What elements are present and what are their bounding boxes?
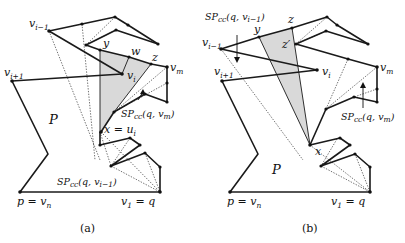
label-sp-vm-a: SPcc(q, vm) — [121, 108, 175, 121]
arrowhead-sp-vm-b — [360, 82, 366, 88]
label-P-a: P — [48, 112, 58, 127]
caption-a: (a) — [80, 222, 95, 235]
label-x-ui-a: x = ui — [104, 123, 137, 138]
label-z-prime-b: z′ — [281, 38, 291, 51]
vertices-a — [10, 15, 169, 193]
label-sp-vim1-a: SPcc(q, vi−1) — [57, 176, 117, 189]
label-v-i-b: vi — [322, 65, 331, 80]
label-p-vn-a: p = vn — [17, 195, 51, 210]
label-v1-q-b: v1 = q — [331, 195, 365, 210]
label-v-ip1-a: vi+1 — [4, 66, 24, 81]
caption-b: (b) — [302, 222, 318, 235]
label-v1-q-a: v1 = q — [121, 195, 155, 210]
figure-canvas: vi−1 vi+1 vi vm y w z P x = ui SPcc(q, v… — [0, 0, 405, 243]
label-w-a: w — [131, 45, 141, 58]
label-x-b: x — [315, 145, 322, 158]
label-y-b: y — [253, 23, 261, 36]
label-v-ip1-b: vi+1 — [214, 65, 234, 80]
panel-b: SPcc(q, vi−1) vi−1 vi+1 vi vm y z z′ x P… — [202, 11, 395, 235]
label-y-a: y — [102, 37, 110, 50]
label-v-im1-a: vi−1 — [29, 17, 49, 32]
label-sp-vm-b: SPcc(q, vm) — [341, 111, 395, 124]
panel-a: vi−1 vi+1 vi vm y w z P x = ui SPcc(q, v… — [4, 15, 183, 235]
label-v-m-b: vm — [380, 61, 393, 76]
polygon-edges-a — [12, 17, 167, 192]
label-z-b: z — [287, 13, 294, 26]
label-p-vn-b: p = vn — [227, 195, 261, 210]
label-P-b: P — [271, 162, 281, 177]
label-z-a: z — [151, 51, 158, 64]
arrowhead-sp-vim1-b — [234, 57, 240, 63]
label-v-m-a: vm — [170, 61, 183, 76]
label-v-im1-b: vi−1 — [202, 36, 222, 51]
